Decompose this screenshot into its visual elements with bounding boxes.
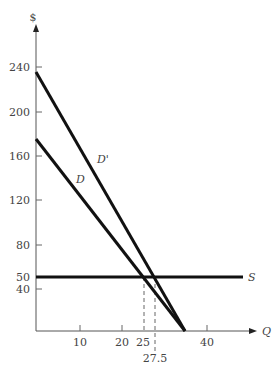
x-tick-25: 25 bbox=[136, 336, 150, 349]
label-d: D bbox=[75, 173, 85, 186]
y-tick-40: 40 bbox=[16, 283, 30, 296]
demand-curve-d-prime bbox=[36, 72, 185, 331]
y-tick-120: 120 bbox=[9, 194, 30, 207]
x-label-27-5: 27.5 bbox=[143, 352, 168, 365]
y-axis-arrow-icon bbox=[33, 24, 39, 32]
y-tick-200: 200 bbox=[9, 106, 30, 119]
label-s: S bbox=[248, 271, 256, 284]
x-axis-arrow-icon bbox=[249, 328, 257, 334]
y-tick-240: 240 bbox=[9, 61, 30, 74]
y-tick-160: 160 bbox=[9, 150, 30, 163]
demand-curve-d bbox=[36, 139, 185, 331]
y-ticks bbox=[36, 67, 42, 289]
x-tick-20: 20 bbox=[115, 336, 129, 349]
x-axis-label: Q bbox=[262, 325, 271, 338]
supply-demand-chart: $ 240 200 160 120 80 50 40 10 20 25 40 2… bbox=[0, 0, 276, 373]
x-tick-40: 40 bbox=[200, 336, 214, 349]
y-tick-80: 80 bbox=[16, 239, 30, 252]
x-tick-10: 10 bbox=[73, 336, 87, 349]
y-axis-label: $ bbox=[30, 11, 37, 24]
label-d-prime: D' bbox=[96, 153, 109, 166]
